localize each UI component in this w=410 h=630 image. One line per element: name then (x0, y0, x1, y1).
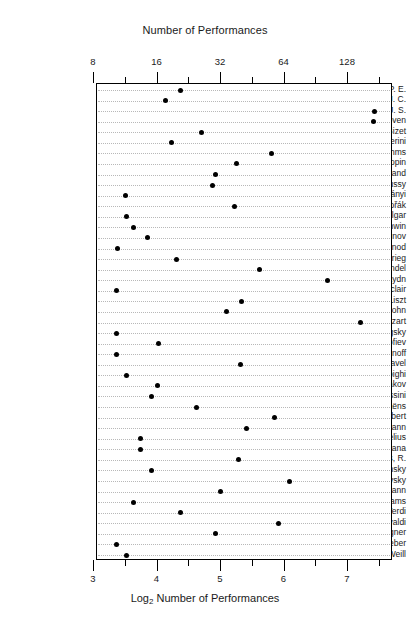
grid-line (98, 312, 390, 313)
data-point (244, 426, 249, 431)
data-point (199, 130, 204, 135)
data-point (257, 267, 262, 272)
grid-line (98, 249, 390, 250)
grid-line (98, 280, 390, 281)
top-axis-tick-major (220, 72, 221, 83)
grid-line (98, 375, 390, 376)
grid-line (98, 101, 390, 102)
bottom-axis-tick-label: 7 (344, 573, 349, 584)
grid-line (98, 90, 390, 91)
x-axis-label-base: Log (131, 592, 149, 604)
data-point (210, 183, 215, 188)
data-point (145, 235, 150, 240)
top-axis-tick-label: 32 (215, 56, 226, 67)
data-point (234, 161, 239, 166)
grid-line (98, 460, 390, 461)
grid-line (98, 365, 390, 366)
data-point (371, 119, 376, 124)
top-axis-tick-major (157, 72, 158, 83)
x-axis-label-rest: Number of Performances (153, 592, 279, 604)
data-point (114, 542, 119, 547)
grid-line (98, 143, 390, 144)
bottom-axis-tick-label: 5 (217, 573, 222, 584)
grid-line (98, 259, 390, 260)
data-point (114, 288, 119, 293)
dot-plot-figure: Number of Performances 8163264128 34567 … (0, 0, 410, 630)
grid-line (98, 227, 390, 228)
bottom-axis-tick-minor (252, 560, 253, 566)
chart-title: Number of Performances (0, 24, 410, 36)
data-point (155, 383, 160, 388)
grid-line (98, 481, 390, 482)
grid-line (98, 323, 390, 324)
data-point (138, 447, 143, 452)
top-axis-tick-label: 128 (339, 56, 355, 67)
bottom-axis-tick-minor (188, 560, 189, 566)
data-point (114, 331, 119, 336)
data-point (287, 479, 292, 484)
data-point (218, 489, 223, 494)
data-point (123, 193, 128, 198)
bottom-axis-tick-major (93, 560, 94, 571)
grid-line (98, 196, 390, 197)
bottom-axis-tick-label: 4 (154, 573, 159, 584)
data-point (239, 299, 244, 304)
data-point (149, 468, 154, 473)
data-point (149, 394, 154, 399)
bottom-axis-tick-major (220, 560, 221, 571)
grid-line (98, 175, 390, 176)
grid-line (98, 164, 390, 165)
grid-line (98, 122, 390, 123)
grid-line (98, 217, 390, 218)
top-axis-tick-major (347, 72, 348, 83)
data-point (178, 510, 183, 515)
top-axis-tick-label: 64 (278, 56, 289, 67)
data-point (156, 341, 161, 346)
grid-line (98, 513, 390, 514)
data-point (194, 405, 199, 410)
grid-line (98, 470, 390, 471)
data-point (174, 257, 179, 262)
data-point (272, 415, 277, 420)
data-point (325, 278, 330, 283)
grid-line (98, 354, 390, 355)
data-point (169, 140, 174, 145)
data-point (213, 172, 218, 177)
top-axis-tick-label: 8 (90, 56, 95, 67)
grid-line (98, 502, 390, 503)
bottom-axis-tick-label: 6 (281, 573, 286, 584)
top-axis-tick-major (284, 72, 285, 83)
data-point (236, 457, 241, 462)
data-point (276, 521, 281, 526)
bottom-axis-tick-minor (315, 560, 316, 566)
grid-line (98, 386, 390, 387)
plot-area (96, 83, 392, 560)
bottom-axis-tick-major (157, 560, 158, 571)
grid-line (98, 270, 390, 271)
grid-line (98, 153, 390, 154)
bottom-axis-tick-label: 3 (90, 573, 95, 584)
data-point (213, 531, 218, 536)
grid-line (98, 132, 390, 133)
grid-line (98, 544, 390, 545)
data-point (131, 225, 136, 230)
data-point (269, 151, 274, 156)
x-axis-label: Log2 Number of Performances (0, 592, 410, 606)
grid-line (98, 111, 390, 112)
data-point (358, 320, 363, 325)
grid-line (98, 407, 390, 408)
data-point (124, 373, 129, 378)
grid-line (98, 396, 390, 397)
grid-line (98, 523, 390, 524)
bottom-axis-tick-minor (125, 560, 126, 566)
grid-line (98, 555, 390, 556)
bottom-axis-tick-major (284, 560, 285, 571)
grid-line (98, 206, 390, 207)
data-point (124, 214, 129, 219)
data-point (224, 309, 229, 314)
bottom-axis-tick-minor (379, 560, 380, 566)
data-point (124, 553, 129, 558)
data-point (138, 436, 143, 441)
data-point (372, 109, 377, 114)
grid-line (98, 291, 390, 292)
